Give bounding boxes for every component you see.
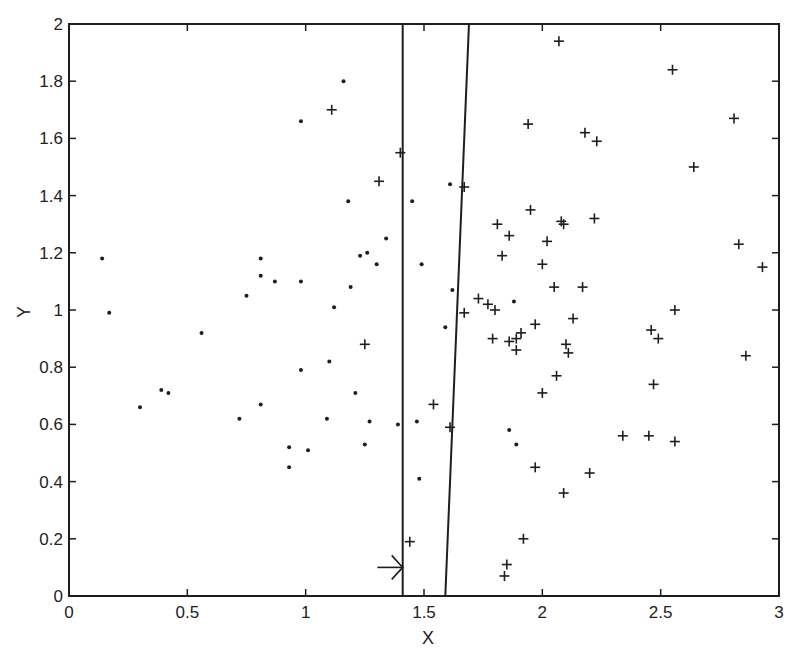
plus-marker [653,334,663,344]
dot-marker [306,448,310,452]
dot-marker [396,422,400,426]
plus-marker [360,339,370,349]
dot-marker [159,388,163,392]
dot-marker [415,420,419,424]
y-tick-label: 1 [54,301,63,320]
x-tick-label: 2 [538,603,547,622]
data-points [100,36,767,581]
dot-marker [259,402,263,406]
dot-marker [237,417,241,421]
plus-marker [734,239,744,249]
plus-marker [741,351,751,361]
dot-marker [299,368,303,372]
y-tick-label: 1.2 [39,244,63,263]
dot-marker [420,262,424,266]
plus-marker [526,205,536,215]
plus-marker [488,334,498,344]
y-tick-label: 0.8 [39,358,63,377]
dot-marker [363,442,367,446]
plus-marker [497,251,507,261]
scatter-chart: 00.511.522.5300.20.40.60.811.21.41.61.82… [0,0,796,660]
dot-marker [365,251,369,255]
dot-marker [325,417,329,421]
x-axis-label: X [422,628,434,648]
boundary-lines [403,24,469,596]
plus-marker [504,231,514,241]
y-tick-label: 0.6 [39,415,63,434]
plus-marker [516,328,526,338]
plus-marker [554,36,564,46]
x-tick-label: 1 [301,603,310,622]
dot-marker [375,262,379,266]
y-tick-label: 2 [54,15,63,34]
plus-marker [668,65,678,75]
plus-marker [580,128,590,138]
plus-marker [459,182,469,192]
plus-marker [559,488,569,498]
dot-marker [448,182,452,186]
y-tick-label: 0.4 [39,473,63,492]
dot-marker [346,199,350,203]
plus-marker [589,213,599,223]
dot-marker [417,477,421,481]
dot-marker [512,299,516,303]
dot-marker [299,279,303,283]
dot-marker [100,257,104,261]
plus-marker [492,219,502,229]
plus-marker [578,282,588,292]
plus-marker [537,259,547,269]
dot-marker [514,442,518,446]
plus-marker [649,379,659,389]
dot-marker [443,325,447,329]
plus-marker [483,299,493,309]
y-tick-label: 1.8 [39,72,63,91]
x-tick-label: 2.5 [649,603,673,622]
plus-marker [644,431,654,441]
dot-marker [259,274,263,278]
dot-marker [107,311,111,315]
dot-marker [287,445,291,449]
tilted-boundary-line [445,24,469,596]
plus-marker [563,348,573,358]
plus-marker [327,105,337,115]
plus-marker [428,399,438,409]
plus-marker [757,262,767,272]
plus-marker [502,560,512,570]
dot-marker [358,254,362,258]
plus-marker [405,537,415,547]
plus-marker [395,148,405,158]
plus-marker [542,236,552,246]
arrow-annotation [377,555,402,579]
plus-marker [585,468,595,478]
y-tick-label: 1.6 [39,129,63,148]
plus-marker [646,325,656,335]
dot-marker [273,279,277,283]
dot-marker [353,391,357,395]
plus-marker [537,388,547,398]
y-axis-label: Y [14,306,34,318]
dot-marker [245,294,249,298]
dot-marker [200,331,204,335]
dot-marker [138,405,142,409]
plus-marker [530,462,540,472]
dot-marker [450,288,454,292]
dot-marker [332,305,336,309]
plus-marker [561,339,571,349]
x-tick-label: 3 [774,603,783,622]
plus-marker [374,176,384,186]
plus-marker [518,534,528,544]
y-tick-label: 0 [54,587,63,606]
plus-marker [592,136,602,146]
plus-marker [568,314,578,324]
plus-marker [523,119,533,129]
plus-marker [549,282,559,292]
plus-marker [670,305,680,315]
plus-marker [499,571,509,581]
dot-marker [507,428,511,432]
plus-marker [490,305,500,315]
x-tick-label: 0 [64,603,73,622]
x-tick-label: 0.5 [176,603,200,622]
dot-marker [384,237,388,241]
dot-marker [259,257,263,261]
dot-marker [349,285,353,289]
